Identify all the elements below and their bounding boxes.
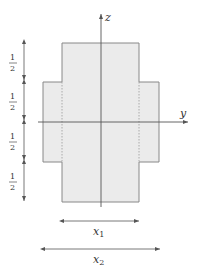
svg-text:1: 1: [10, 132, 15, 141]
x1-label: x1: [93, 225, 104, 239]
fraction-label-4: 1 2: [9, 172, 17, 192]
y-axis-label: y: [179, 107, 187, 120]
z-axis-label: z: [104, 11, 111, 24]
svg-text:2: 2: [10, 64, 15, 73]
cross-section-diagram: z y 1 2 1 2 1 2 1 2 x1 x2: [0, 0, 200, 272]
fraction-label-3: 1 2: [9, 132, 17, 152]
svg-text:1: 1: [10, 53, 15, 62]
svg-text:2: 2: [10, 103, 15, 112]
svg-text:2: 2: [10, 143, 15, 152]
svg-text:1: 1: [10, 172, 15, 181]
x2-label: x2: [93, 253, 104, 267]
svg-text:2: 2: [10, 183, 15, 192]
fraction-label-2: 1 2: [9, 92, 17, 112]
fraction-label-1: 1 2: [9, 53, 17, 73]
svg-text:1: 1: [10, 92, 15, 101]
